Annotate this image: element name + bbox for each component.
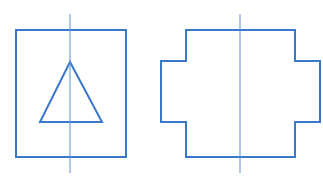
diagram-canvas (0, 0, 323, 190)
outer-rectangle (16, 30, 126, 157)
right-view (161, 14, 320, 173)
triangle (40, 62, 102, 122)
left-view (16, 14, 126, 173)
